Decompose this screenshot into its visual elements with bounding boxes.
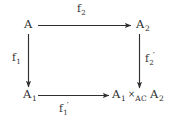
arrow-label-bottom: f1′ (59, 103, 69, 114)
node-bottom-left-base: A (23, 87, 32, 101)
arrow-label-right: f2′ (145, 53, 155, 64)
fiber-right-subscript: 2 (159, 94, 164, 103)
node-top-right-subscript: 2 (145, 24, 150, 33)
node-top-right: A2 (136, 19, 150, 31)
node-bottom-left-subscript: 1 (32, 94, 37, 103)
arrow-label-top-subscript: 2 (81, 9, 85, 17)
fiber-left-base: A (112, 87, 121, 101)
node-bottom-right-fiber-product: A1×ACA2 (112, 89, 164, 101)
node-top-right-base: A (136, 17, 145, 31)
arrow-label-left-subscript: 1 (16, 58, 20, 66)
arrow-label-bottom-prime: ′ (67, 101, 69, 111)
arrow-label-top: f2 (77, 3, 85, 14)
node-top-left: A (24, 19, 33, 31)
commutative-diagram: A A2 A1 A1×ACA2 f2 f1 f2′ f1′ (0, 0, 175, 123)
arrow-label-right-prime: ′ (153, 51, 155, 61)
fiber-base-subscript: AC (135, 94, 147, 103)
fiber-right-base: A (150, 87, 159, 101)
node-top-left-base: A (24, 17, 33, 31)
node-bottom-left: A1 (23, 89, 37, 101)
arrow-label-left: f1 (12, 52, 20, 63)
fiber-left-subscript: 1 (121, 94, 126, 103)
